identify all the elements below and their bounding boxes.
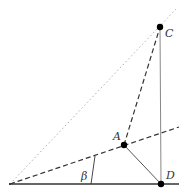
dotted-ray-oc [10,9,176,184]
point-c [157,24,163,30]
geometry-diagram: C A D β [0,0,188,196]
dashed-ray-oa [10,127,179,184]
label-d: D [165,169,175,182]
angle-beta-arc [91,156,95,184]
segment-ad [124,145,161,184]
point-a [121,142,127,148]
segment-cd [160,27,161,184]
point-o [9,183,11,185]
label-beta: β [80,170,87,183]
dashed-segment-ac [124,27,160,145]
label-a: A [112,130,121,143]
label-c: C [165,27,174,40]
point-d [158,181,164,187]
